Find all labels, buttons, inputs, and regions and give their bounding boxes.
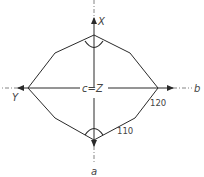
face-label-110: 110	[117, 126, 133, 136]
crystal-outline-lower	[28, 88, 158, 140]
axis-label-a: a	[91, 166, 97, 177]
center-axis-label-c-z: c=Z	[82, 83, 104, 94]
axis-label-y: Y	[12, 92, 19, 103]
axis-label-x: X	[97, 16, 106, 27]
axis-label-b: b	[194, 83, 200, 94]
crystal-outline-upper	[28, 35, 158, 88]
crystal-diagram: X Y b a c=Z 120 110	[0, 0, 204, 177]
face-label-120: 120	[150, 98, 166, 108]
